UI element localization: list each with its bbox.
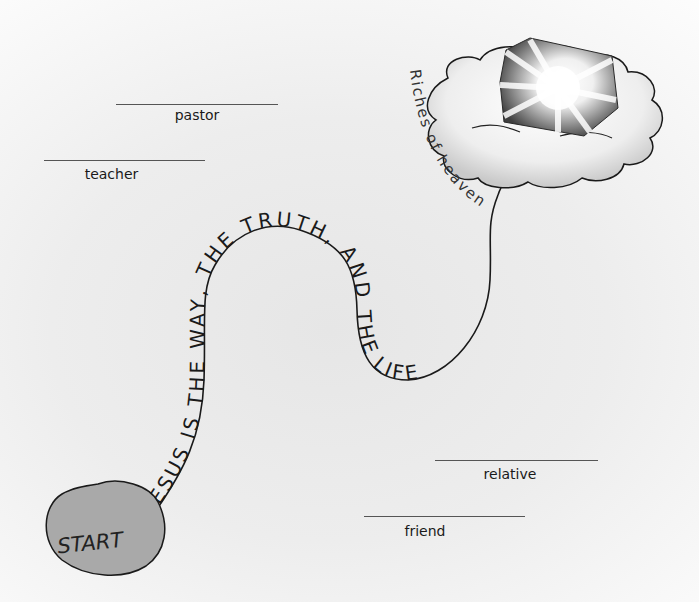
illustration: JESUS IS THE WAY, THE TRUTH, AND THE LIF…: [0, 0, 699, 602]
road-caption: JESUS IS THE WAY, THE TRUTH, AND THE LIF…: [138, 207, 422, 517]
road-caption-text: JESUS IS THE WAY, THE TRUTH, AND THE LIF…: [138, 207, 422, 517]
start-circle[interactable]: START: [46, 481, 165, 575]
treasure-chest-icon: [500, 38, 618, 136]
